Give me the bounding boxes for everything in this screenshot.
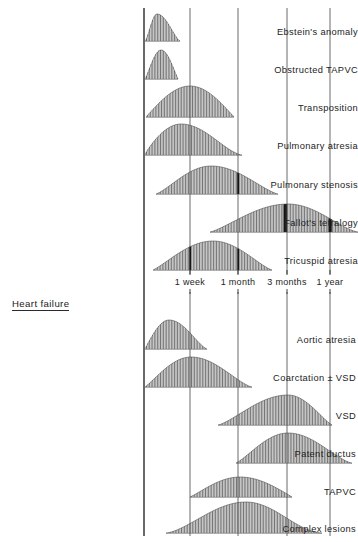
row-label-tapvc: TAPVC	[230, 487, 356, 498]
distribution-transposition	[146, 86, 234, 117]
distribution-ebstein-s-anomaly	[145, 14, 180, 41]
distribution-pulmonary-atresia	[145, 124, 242, 155]
axis-tick-label-1-week: 1 week	[175, 277, 205, 287]
row-label-vsd: VSD	[230, 411, 356, 422]
row-label-tricuspid-atresia: Tricuspid atresia	[232, 256, 358, 267]
row-label-complex-lesions: Complex lesions	[230, 524, 356, 535]
row-label-ebsteins-anomaly: Ebstein's anomaly	[232, 27, 358, 38]
axis-tick-label-3-months: 3 months	[267, 277, 306, 287]
row-label-transposition: Transposition	[232, 103, 358, 114]
distribution-obstructed-tapvc	[145, 50, 178, 79]
row-label-obstructed-tapvc: Obstructed TAPVC	[232, 65, 358, 76]
row-label-fallots-tetralogy: Fallot's tetralogy	[232, 218, 358, 229]
congenital-heart-disease-presentation-chart: Ebstein's anomaly Obstructed TAPVC Trans…	[0, 0, 358, 542]
row-label-patent-ductus: Patent ductus	[230, 449, 356, 460]
row-label-pulmonary-stenosis: Pulmonary stenosis	[232, 180, 358, 191]
axis-tick-label-1-year: 1 year	[317, 277, 344, 287]
distribution-aortic-atresia	[145, 320, 207, 349]
plot-area	[0, 0, 358, 542]
section-heading-heart-failure: Heart failure	[12, 298, 69, 311]
row-label-coarctation-vsd: Coarctation ± VSD	[230, 373, 356, 384]
row-label-pulmonary-atresia: Pulmonary atresia	[232, 141, 358, 152]
axis-tick-label-1-month: 1 month	[221, 277, 256, 287]
row-label-aortic-atresia: Aortic atresia	[230, 335, 356, 346]
